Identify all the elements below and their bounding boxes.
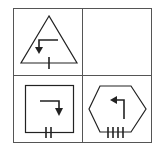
hexagon-shape [89, 86, 146, 132]
arrow-down-icon [35, 40, 58, 54]
cell-bottom-left [26, 86, 74, 139]
square-shape [26, 86, 74, 133]
grid-lines [14, 9, 152, 143]
arrow-down-icon [40, 101, 63, 116]
cell-top-left [21, 16, 77, 69]
arrow-left-icon [110, 96, 124, 119]
puzzle-grid [0, 0, 160, 151]
puzzle-canvas [0, 0, 160, 151]
cell-bottom-right [89, 86, 146, 138]
